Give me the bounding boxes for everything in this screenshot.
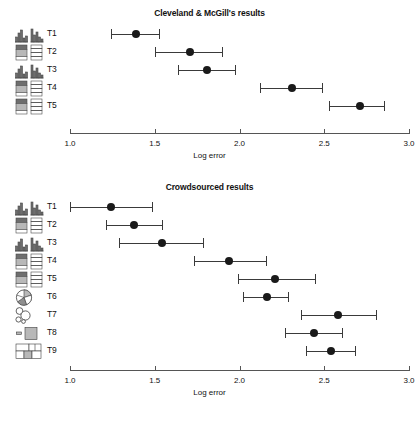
bar-chart-pair-icon <box>15 199 44 215</box>
result-row: T6 <box>0 288 419 306</box>
row-label: T8 <box>47 327 57 337</box>
rect-area-icon <box>15 325 44 341</box>
confidence-interval <box>155 43 223 61</box>
axis-tick <box>70 129 71 134</box>
bar-chart-pair-icon <box>15 62 44 78</box>
ci-cap-high <box>342 328 343 338</box>
axis-tick <box>324 366 325 371</box>
result-row: T1 <box>0 25 419 43</box>
ci-cap-high <box>355 346 356 356</box>
data-point <box>130 221 138 229</box>
data-point <box>158 239 166 247</box>
axis-tick <box>240 129 241 134</box>
ci-cap-low <box>306 346 307 356</box>
data-point <box>356 102 364 110</box>
stacked-bar-pair-icon <box>15 271 44 287</box>
result-row: T9 <box>0 342 419 360</box>
data-point <box>263 293 271 301</box>
ci-cap-high <box>159 29 160 39</box>
data-point <box>225 257 233 265</box>
ci-cap-high <box>376 310 377 320</box>
axis-tick-label: 1.0 <box>64 139 75 148</box>
confidence-interval <box>70 198 153 216</box>
axis-tick-label: 2.0 <box>234 139 245 148</box>
axis-tick <box>70 366 71 371</box>
axis-tick <box>409 366 410 371</box>
axis-tick <box>155 366 156 371</box>
stacked-bar-pair-icon <box>15 217 44 233</box>
result-row: T3 <box>0 234 419 252</box>
row-label: T3 <box>47 237 57 247</box>
axis-title: Log error <box>0 388 419 397</box>
row-label: T1 <box>47 201 57 211</box>
data-point <box>334 311 342 319</box>
confidence-interval <box>243 288 289 306</box>
ci-cap-low <box>178 65 179 75</box>
ci-cap-high <box>266 256 267 266</box>
bubble-size-icon <box>15 307 44 323</box>
data-point <box>132 30 140 38</box>
confidence-interval <box>194 252 267 270</box>
confidence-interval <box>301 306 377 324</box>
ci-cap-low <box>111 29 112 39</box>
row-label: T4 <box>47 255 57 265</box>
ci-cap-high <box>322 83 323 93</box>
panel-crowdsourced: Crowdsourced results T1T2T3T4T5T6T7T8T91… <box>0 176 419 434</box>
ci-cap-high <box>315 274 316 284</box>
axis-tick-label: 1.5 <box>149 139 160 148</box>
ci-cap-low <box>243 292 244 302</box>
confidence-interval <box>306 342 357 360</box>
axis-tick-label: 1.0 <box>64 376 75 385</box>
confidence-interval <box>111 25 160 43</box>
row-label: T9 <box>47 345 57 355</box>
ci-cap-high <box>162 220 163 230</box>
plot-area: T1T2T3T4T5T6T7T8T91.01.52.02.53.0Log err… <box>0 176 419 434</box>
axis-tick-label: 2.5 <box>319 376 330 385</box>
result-row: T2 <box>0 216 419 234</box>
ci-cap-low <box>106 220 107 230</box>
row-label: T4 <box>47 82 57 92</box>
ci-cap-low <box>238 274 239 284</box>
confidence-interval <box>260 79 323 97</box>
result-row: T4 <box>0 252 419 270</box>
data-point <box>310 329 318 337</box>
ci-cap-low <box>301 310 302 320</box>
treemap-icon <box>15 343 44 359</box>
row-label: T5 <box>47 273 57 283</box>
ci-cap-low <box>155 47 156 57</box>
stacked-bar-pair-icon <box>15 44 44 60</box>
axis-tick-label: 3.0 <box>403 139 414 148</box>
x-axis: 1.01.52.02.53.0Log error <box>0 370 419 404</box>
result-row: T5 <box>0 270 419 288</box>
ci-cap-low <box>70 202 71 212</box>
axis-tick-label: 2.0 <box>234 376 245 385</box>
data-point <box>288 84 296 92</box>
data-point <box>327 347 335 355</box>
row-label: T3 <box>47 64 57 74</box>
axis-tick-label: 2.5 <box>319 139 330 148</box>
confidence-interval <box>329 97 385 115</box>
row-label: T5 <box>47 100 57 110</box>
data-point <box>107 203 115 211</box>
row-label: T6 <box>47 291 57 301</box>
ci-cap-low <box>329 101 330 111</box>
confidence-interval <box>285 324 343 342</box>
result-row: T7 <box>0 306 419 324</box>
stacked-bar-pair-icon <box>15 98 44 114</box>
ci-cap-high <box>235 65 236 75</box>
confidence-interval <box>119 234 204 252</box>
x-axis: 1.01.52.02.53.0Log error <box>0 133 419 167</box>
confidence-interval <box>106 216 164 234</box>
axis-tick <box>409 129 410 134</box>
data-point <box>271 275 279 283</box>
ci-cap-high <box>222 47 223 57</box>
bar-chart-pair-icon <box>15 235 44 251</box>
ci-cap-high <box>384 101 385 111</box>
row-label: T1 <box>47 28 57 38</box>
data-point <box>203 66 211 74</box>
ci-cap-high <box>203 238 204 248</box>
ci-cap-low <box>285 328 286 338</box>
figure-canvas: Cleveland & McGill's results T1T2T3T4T51… <box>0 0 419 434</box>
ci-cap-high <box>288 292 289 302</box>
panel-cleveland-mcgill: Cleveland & McGill's results T1T2T3T4T51… <box>0 0 419 170</box>
